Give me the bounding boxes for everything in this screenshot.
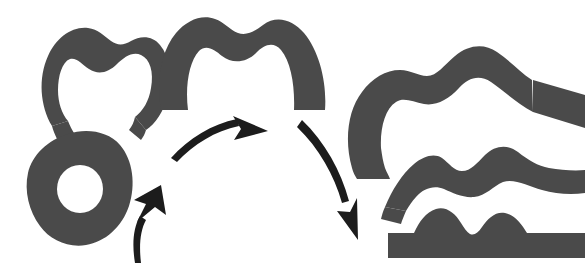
middle-group [159,17,325,110]
blob-with-hole-shape [27,131,133,246]
left-group [27,28,170,246]
shape-transformation-figure [0,0,585,268]
blob-hole [57,165,103,213]
figure-canvas [0,0,585,268]
arch-band-shape [159,17,325,110]
right-group [348,46,585,258]
swoosh-band-shape [348,46,585,179]
wavy-curved-band-shape [381,147,585,224]
small-curved-up-arrow [133,185,166,263]
arrows-layer [133,116,358,263]
wavy-flat-band-shape [388,208,585,258]
omega-horseshoe-shape [42,28,170,140]
large-curved-up-right-arrow [171,116,268,162]
